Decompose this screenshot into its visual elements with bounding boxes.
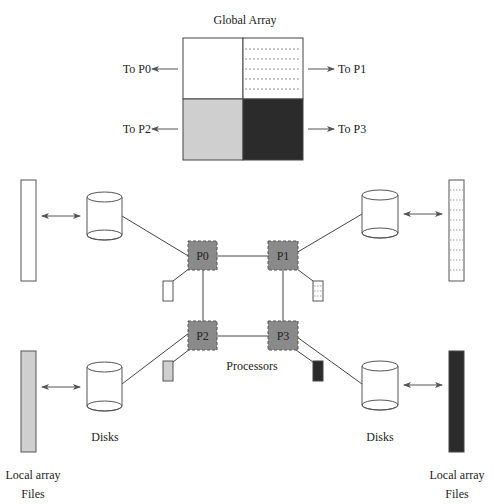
- local-block-p2: [163, 361, 173, 381]
- processor-p0: P0: [188, 241, 217, 270]
- local-block-p3: [313, 361, 323, 381]
- local-array-label-right: Local array: [430, 468, 485, 482]
- quadrant-p1: [243, 38, 303, 99]
- diagram-canvas: Global Array To P0 To P1 To P2 To P3: [0, 0, 493, 504]
- label-to-p3: To P3: [338, 122, 366, 136]
- processor-p3: P3: [268, 321, 298, 350]
- local-block-p0: [163, 281, 173, 301]
- local-array-label-left: Local array: [6, 468, 61, 482]
- quadrant-p2: [183, 99, 243, 160]
- local-file-top-left: [21, 180, 36, 281]
- quadrant-p3: [243, 99, 303, 160]
- global-array: [183, 38, 303, 160]
- svg-text:P2: P2: [196, 329, 209, 343]
- disks-label-right: Disks: [366, 430, 394, 444]
- local-file-top-right: [449, 180, 464, 281]
- disk-bottom-left: [87, 362, 122, 411]
- disk-bottom-right: [362, 361, 398, 410]
- processors-label: Processors: [226, 359, 278, 373]
- label-to-p2: To P2: [123, 122, 151, 136]
- disk-top-right: [362, 190, 398, 238]
- global-array-title: Global Array: [214, 13, 277, 27]
- files-label-left: Files: [21, 487, 45, 501]
- svg-text:P1: P1: [277, 249, 290, 263]
- disk-top-left: [87, 192, 122, 240]
- disks-label-left: Disks: [91, 430, 119, 444]
- local-block-p1: [313, 281, 323, 301]
- quadrant-p0: [183, 38, 243, 99]
- files-label-right: Files: [445, 487, 469, 501]
- local-file-bottom-left: [21, 351, 36, 452]
- svg-text:P3: P3: [277, 329, 290, 343]
- label-to-p0: To P0: [123, 62, 151, 76]
- processor-p1: P1: [268, 241, 298, 270]
- label-to-p1: To P1: [338, 62, 366, 76]
- local-file-bottom-right: [449, 351, 464, 452]
- svg-text:P0: P0: [196, 249, 209, 263]
- processor-p2: P2: [188, 321, 217, 350]
